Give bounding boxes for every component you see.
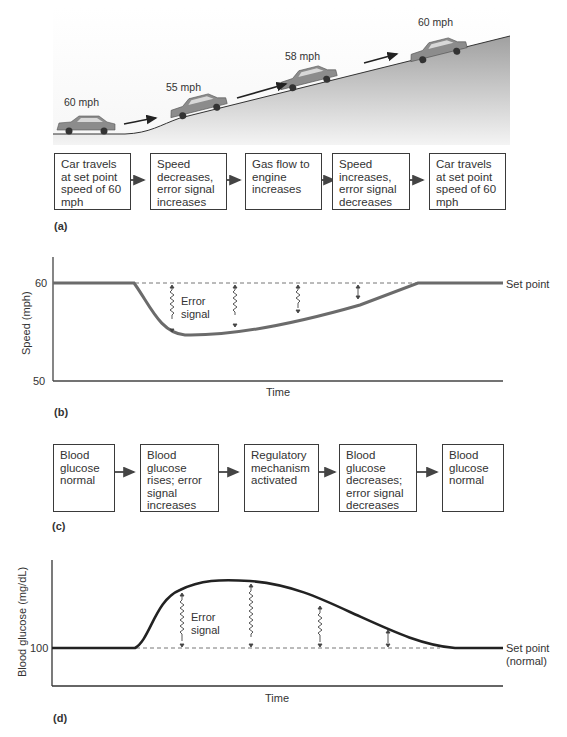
flow-box: Gas flow to engine increases [245,153,322,210]
speed-label: 58 mph [285,50,320,62]
flow-box: Speed increases, error signal decreases [332,153,410,210]
y-tick: 100 [30,642,48,654]
x-axis-label: Time [266,386,290,398]
panel-label-c: (c) [52,520,65,532]
flow-box: Car travels at set point speed of 60 mph [54,153,131,210]
flow-box: Speed decreases, error signal increases [150,153,227,210]
error-signal-label: Error signal [191,611,231,637]
panel-label-a: (a) [54,220,67,232]
flow-box: Blood glucose decreases; error signal de… [339,444,417,512]
y-axis-label: Speed (mph) [20,291,32,355]
panel-label-d: (d) [53,712,67,724]
panel-label-b: (b) [54,406,68,418]
glucose-graph [52,560,503,686]
flow-box: Regulatory mechanism activated [244,444,319,512]
speed-label: 55 mph [166,81,201,93]
illustration-layer [0,0,567,737]
hill-scene [53,8,510,145]
set-point-label: Set point (normal) [506,642,566,668]
flow-box: Car travels at set point speed of 60 mph [429,153,506,210]
y-axis-label: Blood glucose (mg/dL) [16,567,28,677]
y-tick: 60 [35,277,47,289]
speed-label: 60 mph [418,16,453,28]
y-tick: 50 [33,375,45,387]
speed-graph [53,257,503,381]
flow-box: Blood glucose rises; error signal increa… [140,444,219,512]
error-signal-label: Error signal [181,295,221,321]
set-point-label: Set point [506,278,549,291]
flow-box: Blood glucose normal [53,444,115,512]
flow-box: Blood glucose normal [442,444,504,512]
speed-label: 60 mph [64,96,99,108]
x-axis-label: Time [265,692,289,704]
